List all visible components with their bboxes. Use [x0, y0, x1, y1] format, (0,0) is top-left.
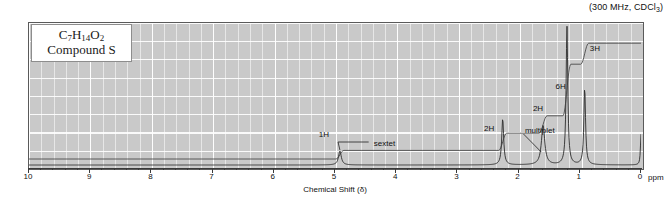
- tick-label-8: 8: [148, 172, 152, 181]
- compound-name: Compound S: [32, 43, 131, 58]
- tick-minor: [52, 168, 53, 170]
- tick-minor: [261, 168, 262, 170]
- tick-minor: [114, 168, 115, 170]
- tick-minor: [285, 168, 286, 170]
- tick-minor: [297, 168, 298, 170]
- tick-minor: [65, 168, 66, 170]
- tick-label-5: 5: [332, 172, 336, 181]
- tick-minor: [481, 168, 482, 170]
- tick-minor: [469, 168, 470, 170]
- tick-minor: [101, 168, 102, 170]
- ch2b-integration: 2H: [533, 104, 543, 113]
- three-h-integration: 3H: [590, 44, 600, 53]
- sextet-leader-tip: [338, 142, 340, 150]
- tick-minor: [383, 168, 384, 170]
- tick-minor: [628, 168, 629, 170]
- multiplet-leader-line: [523, 134, 541, 152]
- tick-minor: [346, 168, 347, 170]
- nmr-spectrum-figure: (300 MHz, CDCl3) C7H14O2 Compound S 1Hse…: [0, 0, 669, 203]
- tick-label-2: 2: [515, 172, 519, 181]
- tick-minor: [371, 168, 372, 170]
- tick-label-0: 0: [638, 172, 642, 181]
- tick-label-4: 4: [393, 172, 397, 181]
- instrument-text-end: ): [660, 2, 663, 12]
- multiplet-label: multiplet: [525, 126, 555, 135]
- tick-minor: [432, 168, 433, 170]
- six-h-integration: 6H: [556, 82, 566, 91]
- tick-minor: [310, 168, 311, 170]
- tick-minor: [126, 168, 127, 170]
- tick-minor: [567, 168, 568, 170]
- x-axis-title: Chemical Shift (δ): [303, 185, 367, 194]
- tick-label-1: 1: [577, 172, 581, 181]
- tick-minor: [236, 168, 237, 170]
- tick-label-7: 7: [209, 172, 213, 181]
- tick-minor: [187, 168, 188, 170]
- tick-label-9: 9: [87, 172, 91, 181]
- x-axis-line: [28, 168, 642, 169]
- tick-minor: [542, 168, 543, 170]
- ch2-integration: 2H: [484, 124, 494, 133]
- tick-minor: [603, 168, 604, 170]
- molecular-formula: C7H14O2: [32, 28, 131, 43]
- instrument-text: (300 MHz, CDCl: [589, 2, 656, 12]
- tick-minor: [163, 168, 164, 170]
- tick-minor: [616, 168, 617, 170]
- tick-minor: [444, 168, 445, 170]
- tick-minor: [199, 168, 200, 170]
- tick-minor: [322, 168, 323, 170]
- tick-minor: [505, 168, 506, 170]
- tick-minor: [530, 168, 531, 170]
- tick-minor: [175, 168, 176, 170]
- formula-element: O: [90, 27, 99, 42]
- instrument-caption: (300 MHz, CDCl3): [589, 2, 663, 13]
- tick-minor: [407, 168, 408, 170]
- tick-minor: [591, 168, 592, 170]
- formula-element: H: [72, 27, 81, 42]
- sextet-integration: 1H: [319, 130, 329, 139]
- tick-minor: [138, 168, 139, 170]
- tick-minor: [493, 168, 494, 170]
- tick-minor: [77, 168, 78, 170]
- tick-minor: [554, 168, 555, 170]
- tick-minor: [358, 168, 359, 170]
- compound-label-box: C7H14O2 Compound S: [31, 24, 132, 62]
- tick-minor: [420, 168, 421, 170]
- tick-label-10: 10: [24, 172, 33, 181]
- tick-minor: [248, 168, 249, 170]
- tick-minor: [40, 168, 41, 170]
- sextet-label: sextet: [374, 139, 395, 148]
- tick-label-3: 3: [454, 172, 458, 181]
- ppm-unit-label: ppm: [648, 173, 664, 182]
- tick-minor: [224, 168, 225, 170]
- tick-label-6: 6: [271, 172, 275, 181]
